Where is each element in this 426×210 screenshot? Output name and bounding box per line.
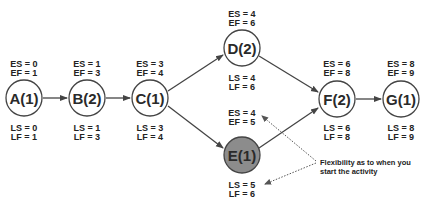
node-e: ES = 4 EF = 5 E(1) LS = 5 LF = 6 <box>224 108 260 199</box>
annotation-line-1: Flexibility as to when you <box>320 158 411 167</box>
node-f-lf: LF = 8 <box>324 132 350 142</box>
node-a-ef: EF = 1 <box>11 68 38 78</box>
node-e-ef: EF = 5 <box>229 117 256 127</box>
node-c-label: C(1) <box>135 90 164 107</box>
node-a-label: A(1) <box>9 90 38 107</box>
edge-e-f <box>259 108 318 148</box>
node-e-lf: LF = 6 <box>229 189 255 199</box>
node-d-lf: LF = 6 <box>229 82 255 92</box>
node-c: ES = 3 EF = 4 C(1) LS = 3 LF = 4 <box>132 59 168 142</box>
annotation-arrow-ls <box>265 163 316 184</box>
node-a: ES = 0 EF = 1 A(1) LS = 0 LF = 1 <box>6 59 42 142</box>
node-b-lf: LF = 3 <box>74 132 100 142</box>
node-b: ES = 1 EF = 3 B(2) LS = 1 LF = 3 <box>69 59 105 142</box>
node-c-lf: LF = 4 <box>137 132 163 142</box>
node-e-label: E(1) <box>228 147 256 164</box>
node-a-lf: LF = 1 <box>11 132 37 142</box>
node-b-ef: EF = 3 <box>74 68 101 78</box>
node-b-label: B(2) <box>72 90 101 107</box>
annotation-line-2: start the activity <box>320 167 378 176</box>
node-c-ef: EF = 4 <box>137 68 164 78</box>
node-g-lf: LF = 9 <box>388 132 414 142</box>
edge-d-f <box>259 56 318 92</box>
annotation-arrow-es <box>262 116 316 161</box>
node-f-label: F(2) <box>323 91 351 108</box>
node-f: ES = 6 EF = 8 F(2) LS = 6 LF = 8 <box>319 59 355 142</box>
node-d-label: D(2) <box>227 40 256 57</box>
node-g: ES = 8 EF = 9 G(1) LS = 8 LF = 9 <box>383 59 419 142</box>
edge-c-d <box>168 55 223 91</box>
node-g-ef: EF = 9 <box>388 68 415 78</box>
node-g-label: G(1) <box>386 91 416 108</box>
network-diagram: ES = 0 EF = 1 A(1) LS = 0 LF = 1 ES = 1 … <box>0 0 426 210</box>
node-d: ES = 4 EF = 6 D(2) LS = 4 LF = 6 <box>224 9 260 92</box>
node-d-ef: EF = 6 <box>229 18 256 28</box>
node-f-ef: EF = 8 <box>324 68 351 78</box>
edge-c-e <box>168 106 223 148</box>
